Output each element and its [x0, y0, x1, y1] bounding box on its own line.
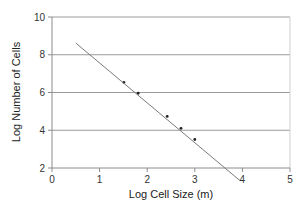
y-axis-title: Log Number of Cells — [10, 41, 22, 142]
x-axis-ticks: 012345 — [49, 168, 293, 185]
x-tick-label: 4 — [240, 174, 246, 185]
y-tick-label: 10 — [34, 12, 46, 23]
data-point — [166, 115, 169, 118]
scatter-chart: 246810 012345 Log Cell Size (m) Log Numb… — [0, 0, 305, 213]
data-point — [193, 138, 196, 141]
x-tick-label: 5 — [287, 174, 293, 185]
y-axis-ticks: 246810 — [34, 12, 52, 174]
x-tick-label: 3 — [192, 174, 198, 185]
x-tick-label: 0 — [49, 174, 55, 185]
data-series — [76, 43, 240, 181]
x-tick-label: 1 — [97, 174, 103, 185]
data-point — [180, 127, 183, 130]
fit-line — [76, 43, 240, 181]
x-axis-title: Log Cell Size (m) — [129, 188, 213, 200]
y-tick-label: 2 — [39, 163, 45, 174]
y-tick-label: 6 — [39, 87, 45, 98]
x-tick-label: 2 — [144, 174, 150, 185]
y-tick-label: 4 — [39, 125, 45, 136]
y-tick-label: 8 — [39, 49, 45, 60]
gridlines — [52, 17, 290, 130]
